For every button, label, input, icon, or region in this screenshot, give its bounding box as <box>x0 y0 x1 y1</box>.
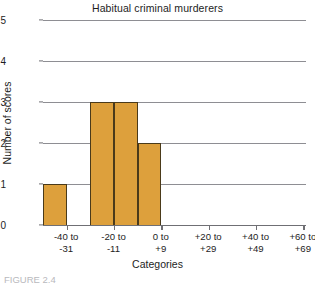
figure-caption: FIGURE 2.4 <box>4 275 304 284</box>
chart-title: Habitual criminal murderers <box>0 2 315 14</box>
y-tick-mark-3 <box>39 101 43 102</box>
x-tick-mark-3 <box>209 225 210 230</box>
histogram-figure: Habitual criminal murderers Number of sc… <box>0 0 315 284</box>
y-tick-mark-2 <box>39 142 43 143</box>
y-tick-mark-5 <box>39 19 43 20</box>
x-tick-label-2: 0 to +9 <box>134 231 188 254</box>
x-tick-label-3: +20 to +29 <box>181 231 235 254</box>
x-tick-mark-0 <box>67 225 68 230</box>
x-axis-label: Categories <box>0 258 315 270</box>
bar <box>43 184 67 225</box>
y-tick-label-5: 5 <box>0 15 6 26</box>
gridline-5 <box>43 20 306 21</box>
y-tick-label-4: 4 <box>0 56 6 67</box>
x-tick-label-0: -40 to -31 <box>39 231 93 254</box>
bar <box>138 143 162 225</box>
y-axis-label: Number of scores <box>1 81 13 164</box>
x-tick-label-5: +60 to +69 <box>276 231 315 254</box>
x-tick-label-4: +40 to +49 <box>229 231 283 254</box>
x-tick-mark-2 <box>161 225 162 230</box>
x-tick-label-1: -20 to -11 <box>87 231 141 254</box>
gridline-4 <box>43 61 306 62</box>
gridline-1 <box>43 184 306 185</box>
gridline-0 <box>43 225 306 226</box>
gridline-2 <box>43 143 306 144</box>
gridline-3 <box>43 102 306 103</box>
bar <box>114 102 138 225</box>
y-tick-label-1: 1 <box>0 179 6 190</box>
y-tick-mark-4 <box>39 60 43 61</box>
y-axis-label-wrap: Number of scores <box>9 20 23 225</box>
x-tick-mark-1 <box>114 225 115 230</box>
plot-area <box>43 20 306 225</box>
y-tick-label-3: 3 <box>0 97 6 108</box>
bar <box>90 102 114 225</box>
y-tick-label-2: 2 <box>0 138 6 149</box>
y-tick-label-0: 0 <box>0 220 6 231</box>
x-tick-mark-5 <box>303 225 304 230</box>
x-tick-mark-4 <box>256 225 257 230</box>
